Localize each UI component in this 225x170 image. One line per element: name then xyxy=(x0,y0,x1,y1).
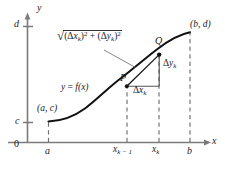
radicand-exponent-2: 2 xyxy=(117,30,121,38)
hypotenuse-leader-line xyxy=(104,50,136,68)
x-tick-label-a: a xyxy=(45,146,50,156)
hypotenuse-length-expression: √(Δxk)2 + (Δyk)2 xyxy=(57,28,122,43)
function-rhs: f(x) xyxy=(75,82,88,92)
x-tick-label-xk: xk xyxy=(152,145,159,156)
x-tick-label-b: b xyxy=(187,146,192,156)
y-tick-label-d: d xyxy=(14,19,19,29)
curve-start-point-label: (a, c) xyxy=(37,104,57,114)
delta-x-subscript: k xyxy=(143,89,146,97)
point-q-label: Q xyxy=(155,36,162,46)
delta-y-k-label: Δyk xyxy=(163,59,176,70)
radicand-plus: + xyxy=(87,31,97,41)
function-equals: = xyxy=(65,82,75,92)
x-tick-xk-subscript: k xyxy=(156,148,159,156)
y-axis-label: y xyxy=(37,3,41,13)
point-q-dot xyxy=(157,52,161,56)
curve-end-point-label: (b, d) xyxy=(190,20,211,30)
x-tick-xk1-subscript: k − 1 xyxy=(117,148,132,156)
delta-y-subscript: k xyxy=(173,62,176,70)
function-equation-label: y = f(x) xyxy=(61,83,89,93)
point-p-label: P xyxy=(120,73,126,83)
radical-sign-icon: √ xyxy=(57,28,64,43)
y-tick-label-c: c xyxy=(15,116,19,126)
x-axis-arrowhead xyxy=(204,140,211,146)
arc-length-figure: y x d c 0 a xk − 1 xk b P Q (a, c) (b, d… xyxy=(0,0,225,170)
origin-label: 0 xyxy=(14,139,19,149)
x-axis-label: x xyxy=(212,136,216,146)
point-p-dot xyxy=(125,84,129,88)
radicand-group: (Δxk)2 + (Δyk)2 xyxy=(63,30,122,43)
x-tick-label-xk-minus-1: xk − 1 xyxy=(113,145,132,156)
delta-x-k-label: Δxk xyxy=(133,86,146,97)
y-axis-arrowhead xyxy=(25,13,31,20)
